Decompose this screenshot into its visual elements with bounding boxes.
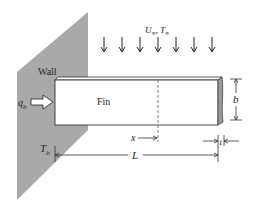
wall-label: Wall	[38, 66, 57, 77]
length-label: L	[131, 149, 138, 161]
flow-arrows	[101, 37, 215, 52]
x-position-arrow	[138, 136, 157, 140]
height-label: b	[233, 93, 239, 105]
down-arrow-icon	[191, 37, 197, 52]
down-arrow-icon	[119, 37, 125, 52]
down-arrow-icon	[137, 37, 143, 52]
fin-label: Fin	[97, 96, 110, 107]
free-stream-label: U∞,T∞	[145, 25, 170, 36]
down-arrow-icon	[173, 37, 179, 52]
fin-front-face	[55, 80, 218, 125]
down-arrow-icon	[101, 37, 107, 52]
fin-end-face	[218, 77, 223, 125]
x-label: x	[130, 132, 136, 143]
thickness-label: t	[220, 137, 223, 147]
fin-diagram: Wall Fin qb Tb U∞,T∞ x L b t	[0, 0, 257, 203]
down-arrow-icon	[155, 37, 161, 52]
down-arrow-icon	[209, 37, 215, 52]
